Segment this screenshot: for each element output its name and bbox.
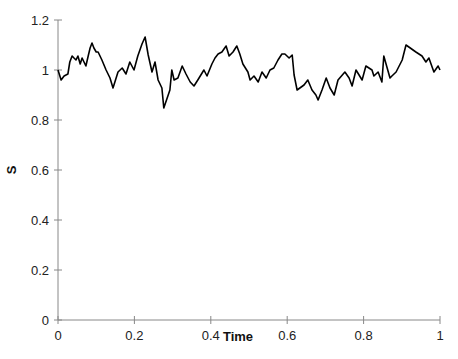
y-tick-label: 0.4 [31,213,49,228]
y-tick-label: 1 [42,63,49,78]
x-tick-label: 0 [54,328,61,343]
x-tick-label: 0.4 [202,328,220,343]
x-tick-label: 0.8 [355,328,373,343]
x-tick-label: 1 [436,328,443,343]
x-tick-label: 0.6 [278,328,296,343]
y-axis-title: S [4,165,19,174]
series-line-s [58,37,440,108]
y-tick-label: 0 [42,313,49,328]
x-tick-label: 0.2 [125,328,143,343]
y-tick-label: 0.8 [31,113,49,128]
line-chart: 00.20.40.60.811.2 00.20.40.60.81 Time S [0,0,458,359]
y-tick-label: 1.2 [31,13,49,28]
y-tick-label: 0.6 [31,163,49,178]
y-tick-label: 0.2 [31,263,49,278]
y-axis: 00.20.40.60.811.2 [31,13,62,328]
x-axis-title: Time [223,329,253,344]
